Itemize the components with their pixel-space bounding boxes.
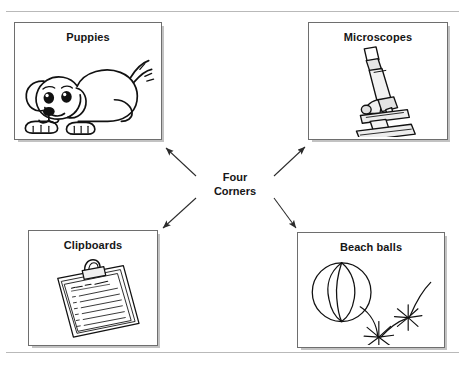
center-hub-line2: Corners [198,184,272,198]
node-box-puppies[interactable]: Puppies [14,22,162,140]
arrow-to-beachballs [274,198,296,228]
node-box-clipboards[interactable]: Clipboards [28,230,158,346]
arrow-to-microscopes [274,147,305,176]
arrow-to-puppies [166,148,196,176]
node-label-microscopes: Microscopes [309,31,447,43]
puppy-icon [15,43,161,137]
center-hub-line1: Four [198,170,272,184]
node-label-puppies: Puppies [15,31,161,43]
center-hub: Four Corners [198,170,272,198]
node-box-microscopes[interactable]: Microscopes [308,22,448,140]
node-label-beachballs: Beach balls [298,241,444,253]
diagram-canvas: · · · · · · · · · · · · · · · · · · · · … [0,0,465,365]
page-rule-bottom [6,352,459,353]
arrow-to-clipboards [163,198,196,228]
node-box-beachballs[interactable]: Beach balls [297,232,445,348]
beach-ball-icon [298,253,444,345]
clipped-page-header: · · · · · · · · · · · · · · · · · · · · … [0,0,465,2]
clipboard-icon [29,251,157,343]
page-rule-top [6,11,459,12]
microscope-icon [309,43,447,137]
node-label-clipboards: Clipboards [29,239,157,251]
